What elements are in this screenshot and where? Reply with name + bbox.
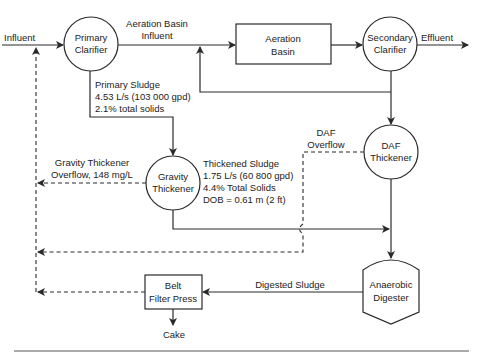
aeration-basin: Aeration Basin — [236, 24, 331, 64]
thickened-sludge-label-3: 4.4% Total Solids — [203, 182, 276, 193]
primary-clarifier-label-1: Primary — [75, 32, 108, 43]
cake-label: Cake — [163, 329, 185, 340]
daf-thickener-label-2: Thickener — [370, 152, 412, 163]
anaerobic-digester-label-2: Digester — [373, 292, 408, 303]
thickened-sludge-label-4: DOB = 0.61 m (2 ft) — [203, 194, 286, 205]
primary-sludge-label-2: 4.53 L/s (103 000 gpd) — [95, 91, 191, 102]
primary-sludge-flow: Primary Sludge 4.53 L/s (103 000 gpd) 2.… — [90, 71, 191, 155]
secondary-clarifier-label-2: Clarifier — [374, 44, 407, 55]
aeration-influent-label-1: Aeration Basin — [126, 18, 188, 29]
gravity-overflow-label-1: Gravity Thickener — [55, 157, 129, 168]
influent-label: Influent — [4, 32, 36, 43]
belt-filter-press-label-2: Filter Press — [149, 293, 197, 304]
primary-clarifier-label-2: Clarifier — [75, 44, 108, 55]
daf-overflow-label-1: DAF — [317, 127, 336, 138]
thickened-sludge-label-2: 1.75 L/s (60 800 gpd) — [203, 170, 293, 181]
anaerobic-digester: Anaerobic Digester — [363, 260, 419, 324]
digested-sludge-label: Digested Sludge — [255, 279, 325, 290]
primary-sludge-label-1: Primary Sludge — [95, 79, 160, 90]
thickened-sludge-flow: Thickened Sludge 1.75 L/s (60 800 gpd) 4… — [173, 158, 389, 229]
effluent-flow: Effluent — [417, 32, 468, 45]
effluent-label: Effluent — [421, 32, 453, 43]
aeration-basin-label-2: Basin — [271, 46, 295, 57]
gravity-thickener-label-1: Gravity — [158, 171, 188, 182]
thickened-sludge-label-1: Thickened Sludge — [203, 158, 279, 169]
gravity-thickener-label-2: Thickener — [152, 183, 194, 194]
digested-sludge-flow: Digested Sludge — [203, 279, 363, 292]
gravity-overflow-label-2: Overflow, 148 mg/L — [51, 169, 133, 180]
gravity-overflow-flow: Gravity Thickener Overflow, 148 mg/L — [38, 157, 146, 183]
gravity-thickener: Gravity Thickener — [146, 156, 200, 210]
aeration-basin-label-1: Aeration — [265, 33, 300, 44]
daf-thickener-label-1: DAF — [382, 140, 401, 151]
belt-filter-press: Belt Filter Press — [145, 275, 202, 309]
aeration-influent-label-2: Influent — [141, 30, 173, 41]
daf-thickener: DAF Thickener — [364, 125, 418, 179]
cake-flow: Cake — [163, 309, 185, 340]
secondary-clarifier-label-1: Secondary — [367, 32, 413, 43]
daf-overflow-flow: DAF Overflow — [38, 127, 364, 252]
belt-filter-press-label-1: Belt — [165, 280, 182, 291]
anaerobic-digester-label-1: Anaerobic — [370, 279, 413, 290]
thickened-sludge-line — [173, 210, 389, 229]
process-flow-diagram: Influent Primary Clarifier Aeration Basi… — [0, 0, 483, 355]
aeration-basin-influent-flow: Aeration Basin Influent — [118, 18, 235, 45]
primary-sludge-label-3: 2.1% total solids — [95, 103, 164, 114]
primary-clarifier: Primary Clarifier — [64, 17, 118, 71]
influent-flow: Influent — [2, 32, 63, 45]
daf-overflow-label-2: Overflow — [307, 139, 345, 150]
secondary-clarifier: Secondary Clarifier — [363, 17, 417, 71]
